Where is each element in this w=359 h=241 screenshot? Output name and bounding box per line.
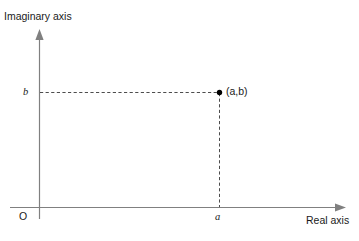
imaginary-axis-tick-label-b: b: [23, 87, 28, 98]
point-marker-ab: [217, 90, 222, 95]
argand-diagram-figure: Imaginary axis Real axis O b a (a,b): [0, 0, 359, 241]
real-axis-arrowhead: [335, 203, 346, 211]
real-axis-tick-label-a: a: [215, 212, 220, 223]
point-coordinate-label: (a,b): [226, 86, 248, 97]
plot-canvas: [0, 0, 359, 241]
imaginary-axis-title: Imaginary axis: [4, 11, 72, 22]
origin-label: O: [19, 211, 27, 222]
imaginary-axis-arrowhead: [35, 29, 43, 40]
real-axis-title: Real axis: [306, 215, 349, 226]
